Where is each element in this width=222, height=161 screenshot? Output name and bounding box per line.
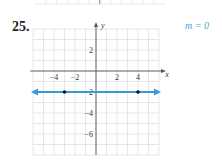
y-tick-label: 2	[89, 46, 93, 55]
x-axis-label: x	[164, 70, 169, 79]
x-tick-label: 4	[136, 73, 140, 82]
data-point	[63, 90, 67, 94]
coordinate-plane: xy−4−2242−2−4−6	[0, 0, 222, 161]
y-tick-label: −6	[84, 130, 93, 139]
y-axis-label: y	[100, 21, 105, 30]
x-tick-label: −4	[50, 73, 59, 82]
y-tick-label: −4	[84, 109, 93, 118]
x-tick-label: −2	[71, 73, 80, 82]
data-point	[136, 90, 140, 94]
right-arrowhead-icon	[154, 89, 161, 96]
y-axis-arrow-icon	[94, 22, 98, 27]
left-arrowhead-icon	[31, 89, 38, 96]
x-tick-label: 2	[115, 73, 119, 82]
